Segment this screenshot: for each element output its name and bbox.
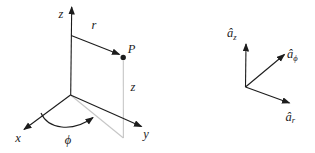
z-height-label: z <box>130 80 136 94</box>
phi-angle-arc <box>41 113 93 127</box>
x-axis-label: x <box>14 131 21 145</box>
ar-vector-line <box>246 87 290 103</box>
z-axis-line <box>71 7 72 95</box>
figure-canvas: z x y r P z ϕ âz âϕ âr <box>0 0 315 153</box>
point-p-label: P <box>127 42 136 56</box>
ar-vector-label: âr <box>286 110 296 126</box>
aphi-vector-label: âϕ <box>287 47 298 63</box>
y-axis-label: y <box>141 127 149 141</box>
radial-projection-guide-line <box>71 95 124 138</box>
r-label: r <box>92 18 97 32</box>
aphi-vector-line <box>246 55 285 88</box>
az-vector-label: âz <box>227 26 237 42</box>
cylindrical-coordinate-diagram: z x y r P z ϕ <box>14 7 149 147</box>
az-label-subscript: z <box>232 32 237 42</box>
az-vector-line <box>246 44 247 87</box>
phi-angle-label: ϕ <box>65 133 72 147</box>
aphi-label-subscript: ϕ <box>293 53 298 63</box>
z-axis-label: z <box>58 7 64 21</box>
ar-label-subscript: r <box>292 115 296 125</box>
x-axis-line <box>24 95 71 130</box>
r-vector-line <box>71 36 119 55</box>
coordinate-figure: z x y r P z ϕ âz âϕ âr <box>0 0 315 153</box>
point-p-dot <box>121 55 126 60</box>
y-axis-line <box>71 95 142 127</box>
unit-vectors-diagram: âz âϕ âr <box>227 26 298 125</box>
